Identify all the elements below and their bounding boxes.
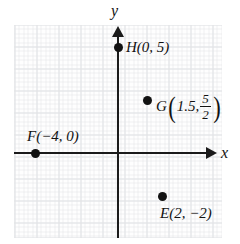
point-dot-h xyxy=(114,43,123,52)
point-label-g-y-fraction: 52 xyxy=(200,92,211,121)
point-label-h-text: H(0, 5) xyxy=(126,39,169,55)
point-label-g: G(1.5,52) xyxy=(156,93,222,122)
point-label-e: E(2, −2) xyxy=(160,206,212,221)
point-dot-e xyxy=(158,192,167,201)
y-axis-arrow-icon xyxy=(112,26,124,37)
point-dot-f xyxy=(31,149,40,158)
point-label-e-text: E(2, −2) xyxy=(160,205,212,221)
y-axis-line xyxy=(117,33,119,238)
x-axis-label: x xyxy=(221,145,228,161)
x-axis-line xyxy=(14,152,210,154)
point-label-f-text: F(−4, 0) xyxy=(27,128,79,144)
point-label-g-paren-close: ) xyxy=(213,96,221,117)
point-label-g-paren-open: ( xyxy=(168,96,176,117)
fraction-denominator: 2 xyxy=(200,106,211,121)
y-axis-label: y xyxy=(111,3,118,19)
point-label-f: F(−4, 0) xyxy=(27,129,79,144)
fraction-numerator: 5 xyxy=(200,92,211,106)
point-label-g-x: 1.5, xyxy=(177,98,200,114)
coordinate-plane-figure: x y H(0, 5) G(1.5,52) F(−4, 0) E(2, −2) xyxy=(0,0,240,244)
point-label-h: H(0, 5) xyxy=(126,40,169,55)
point-label-g-name: G xyxy=(156,98,167,114)
point-dot-g xyxy=(143,96,152,105)
x-axis-arrow-icon xyxy=(206,147,217,159)
